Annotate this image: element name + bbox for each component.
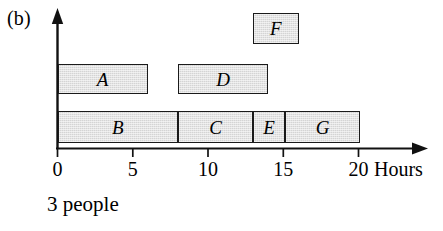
task-bar-f[interactable]: F <box>253 13 300 44</box>
task-bar-g[interactable]: G <box>285 111 360 143</box>
task-label-f: F <box>270 19 282 38</box>
task-bar-b[interactable]: B <box>58 111 178 143</box>
x-tick-label-20: 20 <box>349 158 369 180</box>
task-label-d: D <box>216 70 230 89</box>
x-tick-label-10: 10 <box>198 158 218 180</box>
panel-label: (b) <box>7 6 31 30</box>
task-label-a: A <box>97 70 109 89</box>
x-tick-label-15: 15 <box>273 158 293 180</box>
task-label-c: C <box>209 118 222 137</box>
x-tick-label-5: 5 <box>128 158 138 180</box>
x-axis-ticks <box>58 149 359 158</box>
y-axis-arrowhead <box>52 8 63 24</box>
x-axis-unit-label: Hours <box>374 158 423 180</box>
task-label-g: G <box>316 118 330 137</box>
x-axis-arrowhead <box>412 143 428 155</box>
task-bar-d[interactable]: D <box>178 64 268 94</box>
task-bar-c[interactable]: C <box>178 111 253 143</box>
task-bar-a[interactable]: A <box>58 64 148 94</box>
resource-caption: 3 people <box>47 192 119 216</box>
task-bar-e[interactable]: E <box>253 111 285 143</box>
task-label-b: B <box>112 118 124 137</box>
x-tick-label-0: 0 <box>53 158 63 180</box>
schedule-chart: (b) F A D B C E G <box>0 0 443 231</box>
task-label-e: E <box>263 118 275 137</box>
